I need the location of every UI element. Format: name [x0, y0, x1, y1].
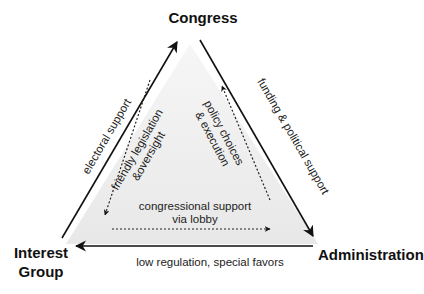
label-congressional-support: congressional support via lobby	[120, 200, 270, 226]
node-administration: Administration	[318, 245, 422, 264]
node-interest-group-line1: Interest	[0, 243, 82, 262]
node-interest-group-line2: Group	[0, 262, 82, 281]
label-congressional-support-line2: via lobby	[120, 213, 270, 226]
label-congressional-support-line1: congressional support	[120, 200, 270, 213]
node-interest-group: Interest Group	[0, 243, 82, 281]
node-congress: Congress	[160, 8, 246, 27]
label-low-regulation: low regulation, special favors	[110, 256, 310, 269]
